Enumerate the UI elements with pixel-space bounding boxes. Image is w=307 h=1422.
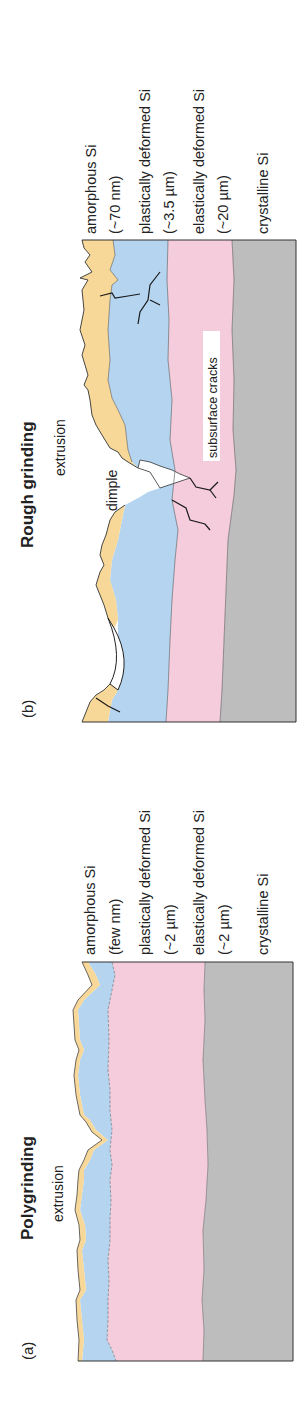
grinding-damage-diagram: (b) Rough grinding extrusion dimple subs…: [0, 0, 307, 1422]
panel-a-crystalline-layer: [202, 962, 293, 1361]
panel-a: [73, 962, 293, 1361]
panel-a-tag: (a): [19, 1342, 36, 1360]
panel-a-crystalline-label: crystalline Si: [255, 874, 271, 955]
panel-b-title: Rough grinding: [18, 421, 37, 548]
panel-a-plastic-label: plastically deformed Si: [137, 810, 153, 955]
panel-a-extrusion-label: extrusion: [50, 1165, 66, 1222]
panel-b-cracks-label: subsurface cracks: [206, 357, 220, 458]
panel-a-elastic-layer: [107, 962, 208, 1361]
panel-a-amorphous-label: amorphous Si: [82, 866, 98, 955]
panel-a-plastic-thickness: (~2 µm): [162, 904, 178, 955]
panel-b-elastic-thickness: (~20 µm): [215, 175, 231, 234]
panel-a-elastic-thickness: (~2 µm): [216, 904, 232, 955]
panel-b-crystalline-label: crystalline Si: [255, 153, 271, 234]
panel-b-extrusion-label: extrusion: [52, 419, 68, 476]
panel-a-amorphous-thickness: (few nm): [107, 899, 123, 955]
panel-b-amorphous-thickness: (~70 nm): [107, 176, 123, 234]
panel-b-elastic-label: elastically deformed Si: [191, 89, 207, 234]
panel-b-tag: (b): [19, 700, 36, 718]
panel-a-elastic-label: elastically deformed Si: [191, 810, 207, 955]
panel-b-amorphous-label: amorphous Si: [83, 145, 99, 234]
panel-b-dimple-label: dimple: [104, 470, 120, 511]
panel-b-plastic-thickness: (~3.5 µm): [161, 171, 177, 234]
panel-b-plastic-label: plastically deformed Si: [137, 89, 153, 234]
panel-a-title: Polygrinding: [18, 1136, 37, 1240]
